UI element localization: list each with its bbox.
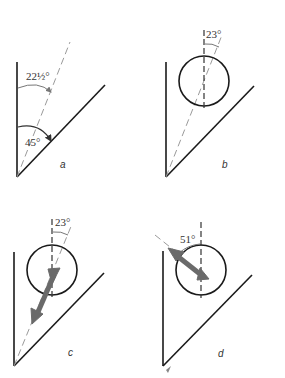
angle-arc — [205, 44, 219, 47]
panel-d: 51° d — [155, 222, 252, 373]
angle-arc — [53, 232, 68, 235]
panel-label-d: d — [218, 348, 224, 359]
angle-label: 23° — [55, 216, 70, 228]
panel-a: 22½° 45° a — [17, 42, 105, 177]
inclined-wall — [14, 273, 104, 366]
angle-label: 51° — [180, 233, 195, 245]
panel-label-b: b — [222, 159, 228, 170]
inclined-wall — [166, 86, 254, 177]
bisector-line — [166, 35, 222, 177]
force-arrow — [168, 248, 209, 280]
bisector-line — [17, 42, 70, 177]
inclined-wall — [163, 275, 252, 366]
arrow-shaft — [176, 255, 200, 274]
panel-label-c: c — [68, 347, 73, 358]
small-arrow-icon — [166, 366, 171, 373]
force-arrow — [31, 268, 60, 324]
angle-label-lower: 45° — [25, 136, 40, 148]
panel-label-a: a — [60, 159, 66, 170]
angle-label-upper: 22½° — [26, 70, 50, 82]
diagram-canvas: 22½° 45° a 23° b 23° c — [0, 0, 285, 378]
angle-arc-upper — [18, 85, 51, 92]
panel-c: 23° c — [14, 216, 104, 366]
angle-label: 23° — [206, 28, 221, 40]
panel-b: 23° b — [166, 28, 254, 177]
